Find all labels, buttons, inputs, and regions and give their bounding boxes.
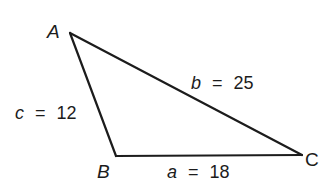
side-c-label: c = 12 — [15, 103, 77, 123]
vertex-label-a: A — [46, 21, 60, 42]
side-b-value: 25 — [234, 73, 254, 93]
side-a-edge — [116, 155, 302, 156]
side-c-equals: = — [35, 103, 46, 123]
triangle-diagram: A B C c = 12 b = 25 a = 18 — [0, 0, 335, 183]
side-a-value: 18 — [210, 162, 230, 182]
side-b-edge — [70, 33, 302, 155]
side-b-label: b = 25 — [191, 73, 254, 93]
side-a-label: a = 18 — [167, 162, 230, 182]
side-c-edge — [70, 33, 116, 156]
side-c-value: 12 — [57, 103, 77, 123]
side-b-equals: = — [212, 73, 223, 93]
side-c-variable: c — [15, 103, 24, 123]
vertex-label-b: B — [97, 161, 110, 182]
vertex-label-c: C — [305, 149, 319, 170]
side-a-equals: = — [188, 162, 199, 182]
side-b-variable: b — [191, 73, 201, 93]
side-a-variable: a — [167, 162, 177, 182]
